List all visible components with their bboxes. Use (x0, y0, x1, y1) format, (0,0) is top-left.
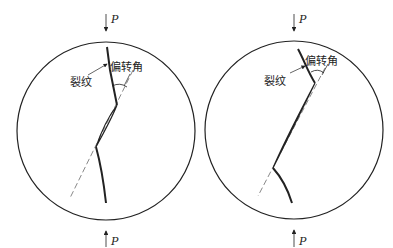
crack-leader (290, 66, 305, 73)
disc-outline (205, 41, 383, 219)
crack-upper (107, 47, 117, 105)
crack-lens (96, 105, 117, 147)
angle-leader (124, 74, 130, 86)
angle-arc (311, 70, 324, 73)
diagram-canvas: P P 裂纹 偏转角 P P 裂纹 偏转角 (0, 0, 393, 248)
crack-lens (273, 83, 315, 168)
crack-leader (88, 64, 107, 75)
left-panel: P P 裂纹 偏转角 (17, 13, 195, 248)
crack-label: 裂纹 (264, 74, 286, 88)
disc-outline (17, 42, 195, 220)
angle-label: 偏转角 (110, 60, 143, 74)
angle-label: 偏转角 (305, 54, 338, 68)
load-label-bottom: P (298, 235, 307, 248)
load-label-bottom: P (110, 235, 119, 248)
load-label-top: P (110, 13, 119, 26)
crack-label: 裂纹 (70, 75, 92, 89)
crack-lower (273, 168, 292, 203)
load-label-top: P (298, 13, 307, 26)
crack-lower (96, 147, 106, 203)
right-panel: P P 裂纹 偏转角 (205, 13, 383, 248)
